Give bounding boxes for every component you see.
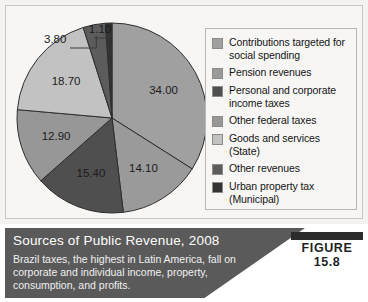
pie-callout-label: 1.10 <box>89 23 111 35</box>
figure-badge-bar <box>291 232 363 240</box>
legend-swatch-icon <box>212 116 223 127</box>
legend-swatch-icon <box>212 134 223 145</box>
chart-panel: 34.0014.1015.4012.9018.703.801.10 Contri… <box>0 0 368 224</box>
legend-item[interactable]: Contributions targeted for social spendi… <box>212 36 350 61</box>
legend-item[interactable]: Personal and corporate income taxes <box>212 84 350 109</box>
pie-slice-label: 34.00 <box>149 84 178 96</box>
legend-item-label: Personal and corporate income taxes <box>229 84 350 109</box>
pie-slice-label: 18.70 <box>52 75 81 87</box>
pie-chart: 34.0014.1015.4012.9018.703.801.10 <box>8 18 206 218</box>
legend-item-label: Pension revenues <box>229 66 311 79</box>
figure-badge-label: FIGURE 15.8 <box>291 241 363 269</box>
pie-slice-label: 12.90 <box>42 130 71 142</box>
figure-page: 34.0014.1015.4012.9018.703.801.10 Contri… <box>0 0 368 302</box>
legend-swatch-icon <box>212 86 223 97</box>
pie-slice-label: 14.10 <box>129 162 158 174</box>
caption-title: Sources of Public Revenue, 2008 <box>13 233 220 248</box>
legend-item-label: Urban property tax (Municipal) <box>229 180 350 205</box>
legend-swatch-icon <box>212 68 223 79</box>
legend-item-label: Goods and services (State) <box>229 132 350 157</box>
legend-item[interactable]: Goods and services (State) <box>212 132 350 157</box>
legend-swatch-icon <box>212 38 223 49</box>
legend-item[interactable]: Other revenues <box>212 162 350 175</box>
legend-item[interactable]: Urban property tax (Municipal) <box>212 180 350 205</box>
legend-item[interactable]: Other federal taxes <box>212 114 350 127</box>
legend-item-label: Other revenues <box>229 162 300 175</box>
caption-body: Brazil taxes, the highest in Latin Ameri… <box>13 253 248 292</box>
legend-swatch-icon <box>212 164 223 175</box>
pie-slice-label: 15.40 <box>77 167 106 179</box>
legend-swatch-icon <box>212 182 223 193</box>
pie-chart-svg: 34.0014.1015.4012.9018.703.801.10 <box>8 18 206 218</box>
pie-callout-label: 3.80 <box>44 33 66 45</box>
pie-slice-group <box>17 23 206 213</box>
figure-caption: Sources of Public Revenue, 2008 Brazil t… <box>0 224 368 302</box>
legend-item-label: Contributions targeted for social spendi… <box>229 36 350 61</box>
legend: Contributions targeted for social spendi… <box>205 28 357 210</box>
legend-item-label: Other federal taxes <box>229 114 316 127</box>
legend-item[interactable]: Pension revenues <box>212 66 350 79</box>
